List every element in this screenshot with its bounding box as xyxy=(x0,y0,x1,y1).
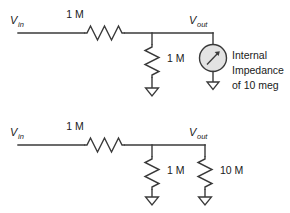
bottom-output-node-label: V out xyxy=(189,126,208,141)
top-output-node-label: V out xyxy=(189,14,208,29)
meter-note-line-2: Impedance xyxy=(232,64,284,76)
circuit-diagram: 1 M 1 M V in V out Internal Impedance of… xyxy=(0,0,290,213)
bottom-series-resistor-symbol xyxy=(84,138,125,152)
bottom-load-resistor-symbol xyxy=(198,156,212,190)
svg-text:out: out xyxy=(197,132,208,141)
meter-note: Internal Impedance of 10 meg xyxy=(232,49,284,91)
svg-text:in: in xyxy=(18,132,24,141)
bottom-shunt-resistor-symbol xyxy=(145,156,159,190)
bottom-series-resistor-label: 1 M xyxy=(66,120,84,132)
svg-text:out: out xyxy=(197,20,208,29)
meter-icon xyxy=(200,45,227,72)
bottom-input-node-label: V in xyxy=(10,126,24,141)
circuit-bottom: 1 M 1 M 10 M V in V out xyxy=(10,120,243,205)
top-input-node-label: V in xyxy=(10,14,24,29)
meter-note-line-3: of 10 meg xyxy=(232,79,279,91)
bottom-load-ground-icon xyxy=(199,197,212,205)
bottom-shunt-resistor-label: 1 M xyxy=(167,164,185,176)
top-shunt-ground-icon xyxy=(146,88,159,96)
meter-note-line-1: Internal xyxy=(232,49,267,61)
bottom-load-resistor-label: 10 M xyxy=(220,164,243,176)
bottom-shunt-ground-icon xyxy=(146,197,159,205)
top-series-resistor-label: 1 M xyxy=(66,8,84,20)
top-meter-ground-icon xyxy=(207,82,219,90)
circuit-top: 1 M 1 M V in V out Internal Impedance of… xyxy=(10,8,284,96)
top-series-resistor-symbol xyxy=(84,26,125,40)
svg-text:in: in xyxy=(18,20,24,29)
top-shunt-resistor-label: 1 M xyxy=(167,52,185,64)
top-shunt-resistor-symbol xyxy=(145,44,159,78)
